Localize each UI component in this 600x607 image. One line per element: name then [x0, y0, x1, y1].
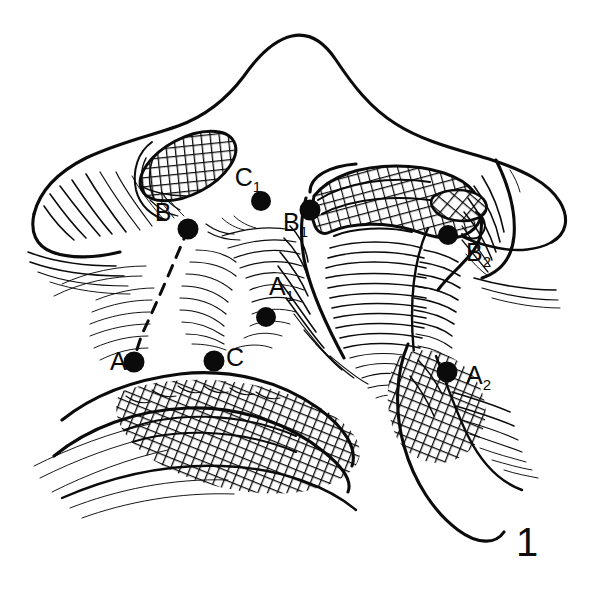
label-B2: B2	[466, 238, 491, 270]
label-A1: A1	[269, 272, 294, 304]
right-lateral-lobe	[462, 160, 560, 308]
label-A: A	[110, 347, 127, 375]
left-fossa-hatching	[54, 250, 236, 360]
point-B1[interactable]	[300, 200, 321, 221]
left-crosshatch-oval	[129, 117, 247, 220]
dashed-measurement-line	[134, 229, 188, 362]
figure-container: B C1 B1 B2 A1 A C A2 1	[0, 0, 600, 607]
label-B: B	[155, 198, 172, 226]
right-lower-crosshatch-band	[388, 344, 538, 541]
label-C1: C1	[235, 163, 261, 195]
label-A2: A2	[466, 361, 491, 393]
point-B2[interactable]	[438, 225, 458, 245]
figure-number: 1	[516, 520, 538, 564]
point-A1[interactable]	[256, 307, 276, 327]
label-C: C	[226, 343, 244, 371]
point-C[interactable]	[204, 351, 225, 372]
point-A2[interactable]	[437, 362, 458, 383]
anatomy-line-drawing: B C1 B1 B2 A1 A C A2 1	[0, 0, 600, 607]
point-B[interactable]	[178, 219, 199, 240]
lower-left-crosshatch-band	[34, 373, 360, 518]
